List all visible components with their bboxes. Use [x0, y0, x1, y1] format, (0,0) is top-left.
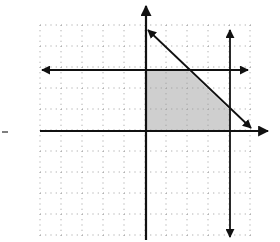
coordinate-plane-figure	[0, 0, 280, 242]
shaded-feasible-region	[147, 70, 230, 131]
graph-canvas	[0, 0, 280, 242]
shaded-region-polygon	[147, 70, 230, 131]
